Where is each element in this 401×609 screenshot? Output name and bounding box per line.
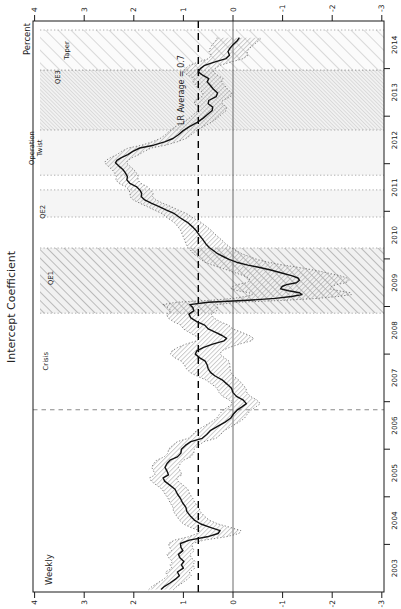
y-tick-label-right: 4 [30, 7, 39, 12]
y-tick-label-left: -3 [377, 600, 386, 608]
chart-title: Intercept Coefficient [5, 250, 18, 363]
y-tick-label-right: 3 [80, 7, 89, 12]
x-tick-label: 2009 [390, 273, 399, 292]
x-tick-label: 2004 [390, 511, 399, 530]
y-tick-label-right: -2 [328, 4, 337, 12]
event-label-qe1: QE1 [47, 271, 55, 285]
x-tick-label: 2014 [390, 35, 399, 54]
y-tick-label-left: 3 [80, 600, 89, 605]
y-tick-label-left: 4 [30, 600, 39, 605]
y-tick-label-right: -3 [377, 4, 386, 12]
intercept-coefficient-chart: 4433221100-1-1-2-2-3-3200320042005200620… [0, 0, 401, 609]
x-tick-label: 2011 [390, 178, 399, 196]
lr-average-label: LR Average = 0.7 [177, 55, 186, 125]
event-label-crisis: Crisis [42, 352, 50, 371]
event-label-twist: Operation [28, 131, 36, 165]
chart-generated-layers: 4433221100-1-1-2-2-3-3200320042005200620… [28, 4, 400, 607]
frequency-note: Weekly [44, 554, 54, 585]
event-label-qe2: QE2 [39, 205, 47, 219]
x-tick-label: 2012 [390, 131, 399, 149]
event-label-taper: Taper [63, 41, 71, 61]
axis-unit-label: Percent [22, 22, 32, 55]
event-band-qe2 [40, 190, 384, 217]
y-tick-label-right: -1 [278, 4, 287, 12]
x-tick-label: 2010 [390, 226, 399, 245]
y-tick-label-right: 1 [179, 7, 188, 12]
y-tick-label-right: 0 [229, 7, 238, 12]
event-label-qe3: QE3 [54, 70, 62, 84]
x-tick-label: 2005 [390, 464, 399, 482]
chart-canvas-rotated-90ccw: 4433221100-1-1-2-2-3-3200320042005200620… [0, 0, 401, 609]
x-tick-label: 2007 [390, 369, 399, 387]
x-tick-label: 2003 [390, 559, 399, 577]
event-label-twist: Twist [36, 139, 44, 157]
y-tick-label-left: -2 [328, 600, 337, 608]
x-tick-label: 2013 [390, 83, 399, 101]
y-tick-label-left: -1 [278, 600, 287, 608]
x-tick-label: 2008 [390, 321, 399, 340]
y-tick-label-left: 1 [179, 600, 188, 605]
rotated-chart-page: 4433221100-1-1-2-2-3-3200320042005200620… [0, 0, 401, 609]
y-tick-label-left: 0 [229, 600, 238, 605]
y-tick-label-right: 2 [129, 7, 138, 12]
y-tick-label-left: 2 [129, 600, 138, 605]
x-tick-label: 2006 [390, 416, 399, 435]
